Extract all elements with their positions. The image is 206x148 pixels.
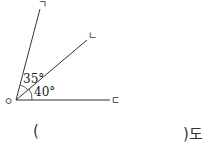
- answer-open-paren: (: [33, 122, 39, 140]
- angle-diagram: ㄱ ㄴ ㄷ ㅇ 35° 40°: [0, 0, 206, 148]
- angle-label-35: 35°: [23, 72, 44, 86]
- label-nieun: ㄴ: [88, 30, 97, 41]
- label-digeut: ㄷ: [111, 95, 120, 106]
- label-giyeok: ㄱ: [38, 0, 47, 10]
- answer-close-unit: )도: [183, 122, 203, 143]
- arc-40: [29, 89, 32, 100]
- label-vertex: ㅇ: [4, 96, 13, 107]
- angle-label-40: 40°: [34, 85, 55, 99]
